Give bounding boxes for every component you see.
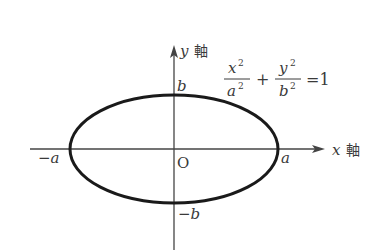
y-axis-label: y: [179, 42, 189, 60]
origin-label: O: [177, 154, 189, 172]
eq-x-exp: 2: [238, 58, 244, 68]
eq-y: y: [278, 59, 288, 77]
point-neg-b-label: −b: [178, 205, 200, 223]
point-b-label: b: [177, 77, 187, 95]
eq-b: b: [279, 82, 289, 100]
ellipse-equation: x 2 a 2 + y 2 b 2 =1: [224, 58, 330, 100]
eq-a-exp: 2: [238, 81, 244, 91]
eq-b-exp: 2: [290, 81, 296, 91]
x-axis-suffix: 軸: [346, 142, 360, 158]
eq-plus: +: [256, 70, 269, 89]
point-neg-a-label: −a: [38, 149, 60, 167]
y-axis-suffix: 軸: [194, 43, 208, 59]
eq-equals-one: =1: [306, 70, 330, 89]
eq-a: a: [227, 82, 236, 100]
ellipse-diagram: y 軸 x 軸 O a −a b −b x 2 a 2 + y 2 b 2 =1: [0, 0, 390, 252]
eq-y-exp: 2: [290, 58, 296, 68]
eq-x: x: [228, 59, 237, 77]
point-a-label: a: [281, 149, 290, 167]
x-axis-label: x: [332, 141, 341, 159]
